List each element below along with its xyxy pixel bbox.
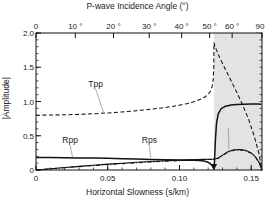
plot-canvas — [0, 0, 275, 205]
amplitude-vs-slowness-figure: P-wave Incidence Angle (°) Horizontal Sl… — [0, 0, 275, 205]
annotation-leader-lines — [70, 89, 229, 158]
